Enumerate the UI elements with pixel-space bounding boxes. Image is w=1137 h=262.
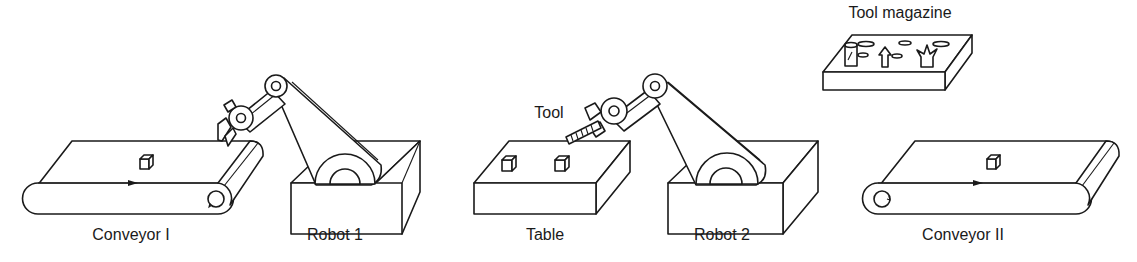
conveyor-2 <box>863 141 1120 214</box>
label-table: Table <box>526 226 564 244</box>
workpiece-cube <box>502 156 516 171</box>
workpiece-cube <box>555 156 569 171</box>
conveyor-1 <box>23 141 264 214</box>
label-conveyor-2: Conveyor II <box>922 226 1004 244</box>
table <box>474 141 630 214</box>
tool-magazine <box>823 35 972 90</box>
label-conveyor-1: Conveyor I <box>92 226 169 244</box>
workpiece-cube <box>140 155 153 169</box>
label-robot-1: Robot 1 <box>307 226 363 244</box>
work-cell-diagram: Conveyor I Robot 1 Table Robot 2 Conveyo… <box>0 0 1137 262</box>
label-tool-magazine: Tool magazine <box>848 4 951 22</box>
label-tool: Tool <box>534 104 563 122</box>
workpiece-cube <box>987 155 1000 169</box>
label-robot-2: Robot 2 <box>694 226 750 244</box>
